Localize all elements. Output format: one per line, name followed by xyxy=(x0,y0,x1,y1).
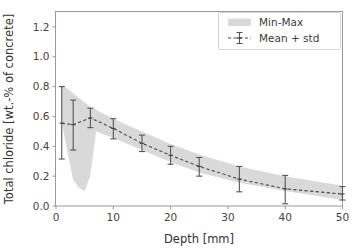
y-tick-label: 0.4 xyxy=(33,140,50,152)
y-tick-label: 1.0 xyxy=(33,50,50,62)
chart-canvas: 01020304050 0.00.20.40.60.81.01.2 Depth … xyxy=(0,0,364,251)
x-tick-label: 10 xyxy=(107,211,120,223)
chart-figure: 01020304050 0.00.20.40.60.81.01.2 Depth … xyxy=(0,0,364,251)
chart-legend: Min-Max Mean + std xyxy=(219,13,341,50)
y-tick-label: 0.0 xyxy=(33,200,50,212)
min-max-band xyxy=(62,84,343,200)
y-axis-title: Total chloride [wt.-% of concrete] xyxy=(2,14,16,205)
x-tick-label: 30 xyxy=(221,211,234,223)
x-axis-ticks: 01020304050 xyxy=(53,206,350,223)
legend-label-mean-std: Mean + std xyxy=(259,32,319,44)
y-tick-label: 0.2 xyxy=(33,170,50,182)
y-tick-label: 0.8 xyxy=(33,80,50,92)
x-tick-label: 50 xyxy=(336,211,349,223)
legend-swatch-min-max xyxy=(228,19,251,27)
y-axis-ticks: 0.00.20.40.60.81.01.2 xyxy=(33,21,56,212)
x-tick-label: 40 xyxy=(279,211,292,223)
y-tick-label: 0.6 xyxy=(33,110,50,122)
y-tick-label: 1.2 xyxy=(33,21,50,33)
legend-label-min-max: Min-Max xyxy=(259,16,303,28)
x-tick-label: 20 xyxy=(164,211,177,223)
x-axis-title: Depth [mm] xyxy=(164,232,234,246)
x-tick-label: 0 xyxy=(53,211,60,223)
